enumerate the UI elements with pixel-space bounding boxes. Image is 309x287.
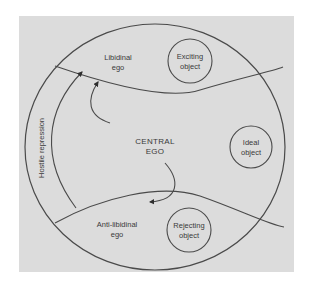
hostile-repression-arrow (51, 72, 82, 208)
rejecting-object-circle (167, 208, 211, 252)
libidinal-ego-label-2: ego (112, 63, 125, 72)
ideal-object-label-2: object (241, 148, 262, 157)
central-to-libidinal-arrow (91, 82, 110, 123)
rejecting-object-label-2: object (179, 231, 200, 240)
central-ego-label-2: EGO (146, 147, 165, 156)
anti-libidinal-ego-label-1: Anti-libidinal (97, 220, 138, 229)
libidinal-ego-boundary (55, 66, 283, 93)
libidinal-ego-label-1: Libidinal (104, 53, 132, 62)
central-ego-label-1: CENTRAL (135, 137, 175, 146)
ideal-object-circle (230, 126, 272, 168)
rejecting-object-label-1: Rejecting (173, 221, 204, 230)
exciting-object-label-2: object (180, 62, 201, 71)
ideal-object-label-1: Ideal (243, 138, 260, 147)
hostile-repression-label: Hostile repression (37, 118, 46, 178)
anti-libidinal-ego-label-2: ego (111, 230, 124, 239)
exciting-object-label-1: Exciting (177, 52, 203, 61)
central-to-anti-libidinal-arrow (150, 163, 175, 202)
exciting-object-circle (168, 39, 212, 83)
object-relations-diagram: Libidinal ego Exciting object CENTRAL EG… (0, 0, 309, 287)
